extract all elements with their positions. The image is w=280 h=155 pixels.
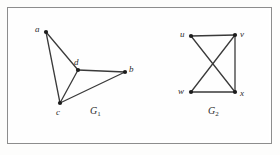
- vertex-c: [58, 101, 62, 105]
- graph-caption-G1: G1: [90, 106, 101, 116]
- vertex-d: [76, 68, 80, 72]
- graph-caption-subscript-G2: 2: [215, 110, 219, 118]
- vertex-w: [189, 90, 193, 94]
- vertex-label-w: w: [178, 87, 184, 96]
- vertex-x: [233, 90, 237, 94]
- graph-diagram-canvas: [0, 0, 280, 155]
- graph-caption-G2: G2: [208, 106, 219, 116]
- vertex-a: [44, 30, 48, 34]
- vertex-label-a: a: [35, 25, 40, 34]
- edge-d-b: [78, 70, 125, 72]
- edge-a-c: [46, 32, 60, 103]
- vertex-label-x: x: [240, 89, 244, 98]
- vertex-label-c: c: [56, 108, 60, 117]
- graph-G2-edges: [191, 35, 235, 92]
- vertex-u: [189, 34, 193, 38]
- graph-G1-edges: [46, 32, 125, 103]
- vertex-label-b: b: [129, 65, 134, 74]
- vertex-b: [123, 70, 127, 74]
- vertex-v: [233, 33, 237, 37]
- vertex-label-u: u: [180, 30, 185, 39]
- vertex-label-v: v: [240, 30, 244, 39]
- edge-u-v: [191, 35, 235, 36]
- graph-caption-subscript-G1: 1: [97, 110, 101, 118]
- figure-root: adbcG1uvwxG2: [0, 0, 280, 155]
- vertex-label-d: d: [74, 58, 79, 67]
- graph-G1-vertices: [44, 30, 127, 105]
- edge-c-b: [60, 72, 125, 103]
